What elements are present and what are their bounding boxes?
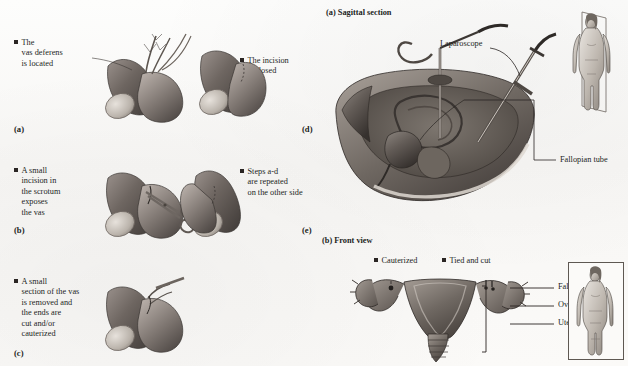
step-b-line-3: the scrotum (22, 187, 61, 196)
step-b-id: (b) (14, 225, 25, 235)
front-view-title: Front view (334, 236, 372, 245)
front-view-label: (b) Front view (322, 236, 373, 245)
front-view-id: (b) (322, 236, 332, 245)
illustration-uterus-front-view (350, 268, 530, 366)
sagittal-view-label: (a) Sagittal section (326, 8, 391, 17)
cauterized-label: Cauterized (374, 256, 417, 266)
figure-page: The vas deferens is located (a) (0, 0, 628, 366)
illustration-scrotum-vas-removed (92, 272, 202, 364)
step-c-id: (c) (14, 348, 24, 358)
illustration-scrotum-closed (188, 38, 268, 128)
laparoscope-leader-line (490, 46, 530, 80)
step-c-line-4: the ends are (22, 308, 62, 317)
vasectomy-panel: The vas deferens is located (a) (0, 0, 314, 366)
step-a-caption: The vas deferens is located (14, 38, 94, 69)
step-c-line-5: cut and/or (22, 319, 55, 328)
tubal-ligation-panel: (a) Sagittal section (314, 0, 628, 366)
illustration-scrotum-other-side (178, 160, 258, 252)
bullet-square-icon (374, 258, 378, 262)
tied-and-cut-label: Tied and cut (442, 256, 491, 266)
step-b-line-1: A small (22, 166, 48, 175)
bullet-square-icon (14, 40, 18, 44)
step-c-line-6: cauterized (22, 329, 56, 338)
step-e-id: (e) (302, 225, 312, 235)
fallopian-tube-sagittal-leader (464, 96, 556, 164)
fallopian-tube-sagittal-label: Fallopian tube (560, 155, 608, 164)
step-b-line-5: the vas (22, 208, 45, 217)
cauterized-text: Cauterized (382, 256, 418, 266)
step-a-line-1: The (22, 38, 35, 47)
female-body-front-inset (568, 262, 624, 360)
bullet-square-icon (14, 168, 18, 172)
step-b-line-2: incision in (22, 176, 57, 185)
step-d-id: (d) (302, 124, 313, 134)
step-c-line-2: section of the vas (22, 287, 80, 296)
step-c-line-1: A small (22, 277, 48, 286)
sagittal-view-id: (a) (326, 8, 336, 17)
step-a-line-2: vas deferens (22, 48, 63, 57)
step-b-line-4: exposes (22, 197, 48, 206)
step-a-id: (a) (14, 124, 24, 134)
tied-and-cut-text: Tied and cut (450, 256, 491, 266)
female-body-sagittal-plane-inset (560, 8, 622, 116)
laparoscope-label: Laparoscope (440, 39, 482, 48)
step-b-caption: A small incision in the scrotum exposes … (14, 166, 94, 218)
step-c-line-3: is removed and (22, 298, 73, 307)
step-a-line-3: is located (22, 59, 54, 68)
bullet-square-icon (14, 279, 18, 283)
bullet-square-icon (442, 258, 446, 262)
sagittal-view-title: Sagittal section (338, 8, 392, 17)
